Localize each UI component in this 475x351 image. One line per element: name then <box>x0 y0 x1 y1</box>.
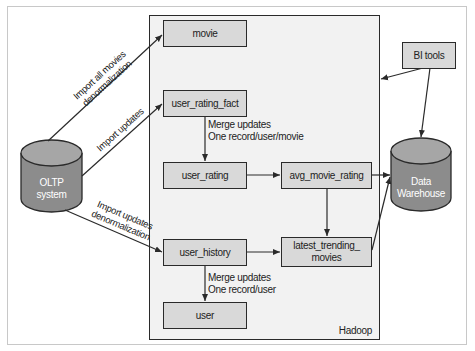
oltp-label-line2: system <box>21 189 82 201</box>
node-latest-trending-movies: latest_trending_ movies <box>281 237 372 267</box>
node-bi-tools-label: BI tools <box>414 50 445 62</box>
node-user: user <box>163 302 247 329</box>
merge-note-user-movie-line2: One record/user/movie <box>208 131 303 143</box>
oltp-label-line1: OLTP <box>21 177 82 189</box>
node-user-label: user <box>196 310 214 322</box>
merge-note-user-movie: Merge updates One record/user/movie <box>208 119 303 143</box>
merge-note-user-line2: One record/user <box>208 284 276 296</box>
node-user-rating-fact: user_rating_fact <box>163 90 247 117</box>
node-user-rating-fact-label: user_rating_fact <box>172 98 239 110</box>
node-avg-movie-rating: avg_movie_rating <box>281 162 372 189</box>
node-latest-trending-label-line2: movies <box>312 252 342 264</box>
node-user-rating: user_rating <box>163 162 247 189</box>
node-avg-movie-rating-label: avg_movie_rating <box>289 170 363 182</box>
hadoop-label: Hadoop <box>322 325 372 336</box>
node-user-history-label: user_history <box>180 247 231 259</box>
warehouse-label-line1: Data <box>391 176 451 188</box>
node-latest-trending-label-line1: latest_trending_ <box>293 240 359 252</box>
merge-note-user: Merge updates One record/user <box>208 272 276 296</box>
node-bi-tools: BI tools <box>402 42 456 69</box>
node-user-history: user_history <box>163 239 247 266</box>
warehouse-label-line2: Warehouse <box>391 188 451 200</box>
oltp-system-label: OLTP system <box>21 177 82 201</box>
merge-note-user-movie-line1: Merge updates <box>208 119 303 131</box>
node-movie-label: movie <box>192 28 217 40</box>
data-warehouse-label: Data Warehouse <box>391 176 451 200</box>
merge-note-user-line1: Merge updates <box>208 272 276 284</box>
node-movie: movie <box>163 20 247 47</box>
node-user-rating-label: user_rating <box>182 170 229 182</box>
